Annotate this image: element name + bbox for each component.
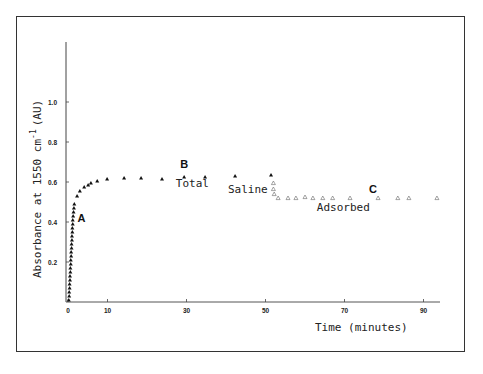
data-point-adsorbed <box>435 196 439 200</box>
data-point-adsorbed <box>294 196 298 200</box>
data-point-total <box>69 254 73 258</box>
y-tick-label: 0.4 <box>48 219 57 226</box>
data-point-total <box>67 298 71 302</box>
data-point-total <box>71 222 75 226</box>
data-point-total <box>233 174 237 178</box>
data-point-total <box>68 274 72 278</box>
axes <box>66 42 440 302</box>
data-point-adsorbed <box>271 181 275 185</box>
data-point-total <box>160 177 164 181</box>
tick-marks: 0.20.40.60.81.001030507090 <box>48 99 427 315</box>
data-point-adsorbed <box>348 196 352 200</box>
data-point-total <box>69 262 73 266</box>
y-tick-label: 0.2 <box>48 259 57 266</box>
data-point-total <box>95 179 99 183</box>
annotations: ABCTotalSalineAdsorbed <box>77 158 377 224</box>
data-point-total <box>75 194 79 198</box>
data-point-total <box>70 230 74 234</box>
data-point-adsorbed <box>376 196 380 200</box>
y-axis-title-unit: (AU) <box>31 100 44 127</box>
data-point-total <box>70 238 74 242</box>
data-point-adsorbed <box>303 195 307 199</box>
data-point-total <box>122 176 126 180</box>
x-tick-label: 90 <box>420 307 428 314</box>
data-point-total <box>82 185 86 189</box>
chart-canvas: 0.20.40.60.81.001030507090 ABCTotalSalin… <box>0 0 483 374</box>
data-point-adsorbed <box>276 196 280 200</box>
data-point-total <box>71 218 75 222</box>
annotation-saline: Saline <box>228 183 268 196</box>
data-point-total <box>70 242 74 246</box>
x-tick-label: 30 <box>183 307 191 314</box>
data-point-total <box>78 189 82 193</box>
data-point-total <box>69 258 73 262</box>
y-tick-label: 1.0 <box>48 99 57 106</box>
series-adsorbed <box>271 181 439 200</box>
annotation-adsorbed: Adsorbed <box>317 201 370 214</box>
x-tick-label: 10 <box>104 307 112 314</box>
data-point-total <box>68 278 72 282</box>
data-point-total <box>68 286 72 290</box>
y-axis-title-sup: -1 <box>29 129 38 139</box>
data-point-adsorbed <box>311 196 315 200</box>
data-point-total <box>72 206 76 210</box>
data-point-adsorbed <box>271 187 275 191</box>
data-point-adsorbed <box>286 196 290 200</box>
annotation-a: A <box>77 212 85 224</box>
x-tick-label: 70 <box>341 307 349 314</box>
data-point-total <box>269 173 273 177</box>
data-point-total <box>72 202 76 206</box>
data-point-adsorbed <box>321 196 325 200</box>
data-point-total <box>67 294 71 298</box>
data-point-total <box>69 250 73 254</box>
data-point-total <box>139 176 143 180</box>
x-tick-label: 50 <box>262 307 270 314</box>
data-point-adsorbed <box>396 196 400 200</box>
data-point-adsorbed <box>272 192 276 196</box>
x-tick-label: 0 <box>66 307 70 314</box>
annotation-b: B <box>180 158 188 170</box>
data-point-total <box>72 210 76 214</box>
y-axis-title-main: Absorbance at 1550 cm <box>31 139 44 278</box>
data-point-total <box>105 177 109 181</box>
data-point-total <box>70 226 74 230</box>
x-axis-title: Time (minutes) <box>315 321 408 334</box>
data-point-adsorbed <box>331 196 335 200</box>
data-point-total <box>68 270 72 274</box>
data-point-total <box>68 282 72 286</box>
y-tick-label: 0.8 <box>48 139 57 146</box>
annotation-total: Total <box>176 177 209 190</box>
data-point-total <box>67 290 71 294</box>
data-point-total <box>89 181 93 185</box>
data-point-total <box>70 234 74 238</box>
data-point-total <box>70 246 74 250</box>
data-point-adsorbed <box>407 196 411 200</box>
data-point-total <box>68 266 72 270</box>
data-point-total <box>71 214 75 218</box>
annotation-c: C <box>369 183 377 195</box>
y-tick-label: 0.6 <box>48 179 57 186</box>
y-axis-title: Absorbance at 1550 cm-1(AU) <box>29 100 44 278</box>
